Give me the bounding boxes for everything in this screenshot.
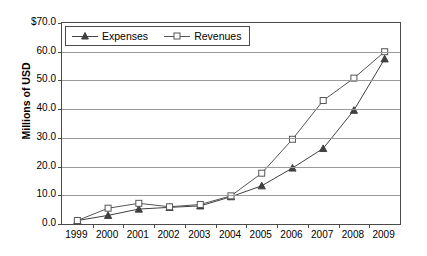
y-tick-label: 50.0 <box>10 74 56 84</box>
plot-area <box>61 22 401 225</box>
legend-label: Revenues <box>194 30 241 42</box>
x-axis-tick-labels: 1999200020012002200320042005200620072008… <box>61 229 401 245</box>
data-point-revenues <box>105 205 111 211</box>
square-marker-icon <box>164 31 190 41</box>
x-tick-mark <box>339 224 340 228</box>
y-tick-label: 40.0 <box>10 103 56 113</box>
x-tick-mark <box>123 224 124 228</box>
x-tick-mark <box>216 224 217 228</box>
y-tick-label: 0.0 <box>10 218 56 228</box>
y-tick-label: 30.0 <box>10 132 56 142</box>
x-tick-mark <box>277 224 278 228</box>
legend-label: Expenses <box>102 30 148 42</box>
x-tick-label: 2009 <box>364 229 404 240</box>
x-tick-mark <box>369 224 370 228</box>
data-point-revenues <box>136 200 142 206</box>
y-tick-mark <box>58 52 62 53</box>
y-tick-mark <box>58 195 62 196</box>
data-point-revenues <box>74 218 80 224</box>
data-point-expenses <box>258 182 265 189</box>
data-point-revenues <box>259 170 265 176</box>
x-tick-mark <box>154 224 155 228</box>
y-tick-mark <box>58 80 62 81</box>
y-tick-mark <box>58 109 62 110</box>
line-chart: Millions of USD $70.060.050.040.030.020.… <box>0 0 427 256</box>
y-tick-mark <box>58 224 62 225</box>
y-tick-label: 20.0 <box>10 161 56 171</box>
gridline <box>62 138 400 139</box>
chart-legend: ExpensesRevenues <box>65 26 250 46</box>
y-tick-mark <box>58 138 62 139</box>
y-tick-label: 60.0 <box>10 46 56 56</box>
series-layer <box>62 23 400 224</box>
gridline <box>62 195 400 196</box>
data-point-expenses <box>289 164 296 171</box>
x-tick-mark <box>308 224 309 228</box>
y-tick-mark <box>58 167 62 168</box>
data-point-revenues <box>167 204 173 210</box>
x-tick-mark <box>246 224 247 228</box>
legend-item-expenses[interactable]: Expenses <box>72 30 148 42</box>
gridline <box>62 80 400 81</box>
x-tick-mark <box>93 224 94 228</box>
triangle-marker-icon <box>72 31 98 41</box>
legend-item-revenues[interactable]: Revenues <box>164 30 241 42</box>
y-axis-tick-labels: $70.060.050.040.030.020.010.00.0 <box>0 0 56 256</box>
y-tick-mark <box>58 23 62 24</box>
y-tick-label: 10.0 <box>10 189 56 199</box>
data-point-expenses <box>381 55 388 62</box>
gridline <box>62 167 400 168</box>
gridline <box>62 52 400 53</box>
gridline <box>62 109 400 110</box>
y-tick-label: $70.0 <box>10 17 56 27</box>
data-point-revenues <box>320 98 326 104</box>
x-tick-mark <box>185 224 186 228</box>
data-point-revenues <box>197 201 203 207</box>
